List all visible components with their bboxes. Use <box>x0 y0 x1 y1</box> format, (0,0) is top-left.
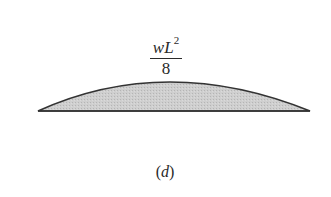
numerator: wL2 <box>148 33 184 57</box>
numerator-var: wL <box>153 38 174 57</box>
denominator: 8 <box>148 60 184 78</box>
max-moment-label: wL2 8 <box>148 33 184 78</box>
figure-caption: (d) <box>150 163 180 181</box>
caption-letter: d <box>161 163 169 180</box>
parabolic-area <box>38 82 310 111</box>
exponent: 2 <box>174 34 180 46</box>
moment-diagram: wL2 8 (d) <box>0 0 331 197</box>
caption-close: ) <box>169 163 174 180</box>
